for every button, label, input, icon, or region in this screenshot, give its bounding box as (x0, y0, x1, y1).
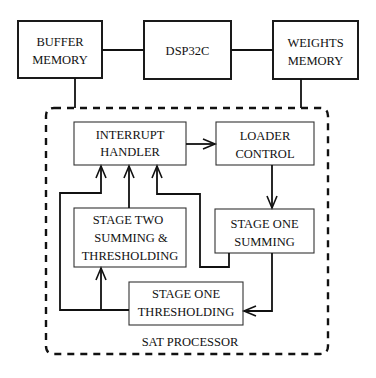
buffer-memory-block: BUFFER MEMORY (18, 21, 102, 78)
weights-memory-block: WEIGHTS MEMORY (273, 21, 358, 79)
stage-one-summing-block: STAGE ONE SUMMING (215, 209, 314, 253)
stage-two-to-interrupt-arrow (124, 166, 134, 208)
interrupt-handler-label-line2: HANDLER (100, 145, 160, 159)
buffer-memory-label-line2: MEMORY (32, 53, 88, 67)
dsp32c-label: DSP32C (166, 44, 210, 58)
weights-memory-label-line2: MEMORY (288, 54, 344, 68)
weights-memory-label-line1: WEIGHTS (287, 36, 343, 50)
stage-two-label-line2: SUMMING & (94, 231, 168, 245)
loader-control-label-line1: LOADER (240, 129, 291, 143)
buffer-memory-label-line1: BUFFER (36, 35, 84, 49)
stage-two-label-line1: STAGE TWO (93, 213, 164, 227)
stage-one-summing-label-line2: SUMMING (234, 235, 294, 249)
interrupt-handler-label-line1: INTERRUPT (96, 128, 165, 142)
stage-one-thresholding-block: STAGE ONE THRESHOLDING (129, 282, 243, 325)
dsp32c-block: DSP32C (144, 21, 231, 79)
thresholding-to-stage-two-arrow (96, 268, 106, 310)
summing-to-thresholding-arrow (244, 253, 272, 316)
interrupt-to-loader-arrow (186, 139, 215, 149)
sat-processor-label: SAT PROCESSOR (142, 335, 239, 349)
stage-one-thresholding-label-line2: THRESHOLDING (138, 305, 235, 319)
stage-one-thresholding-label-line1: STAGE ONE (152, 287, 220, 301)
stage-two-label-line3: THRESHOLDING (82, 249, 179, 263)
loader-to-summing-arrow (267, 165, 277, 208)
loader-control-label-line2: CONTROL (235, 147, 294, 161)
stage-two-summing-thresholding-block: STAGE TWO SUMMING & THRESHOLDING (74, 208, 186, 267)
stage-one-summing-label-line1: STAGE ONE (230, 217, 298, 231)
sat-processor-block-diagram: BUFFER MEMORY DSP32C WEIGHTS MEMORY SAT … (0, 0, 376, 378)
interrupt-handler-block: INTERRUPT HANDLER (74, 122, 186, 165)
loader-control-block: LOADER CONTROL (216, 122, 314, 165)
